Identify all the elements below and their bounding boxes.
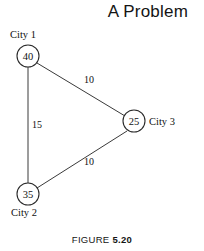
city-label-city3: City 3 (149, 116, 175, 127)
edge-group (28, 63, 127, 188)
edge-city1-city3 (37, 63, 125, 116)
node-value-city1: 40 (23, 51, 34, 62)
edge-label-group: 10 15 10 (32, 74, 94, 167)
edge-weight-city1-city2: 15 (32, 119, 42, 130)
city-label-city1: City 1 (10, 29, 36, 40)
figure-container: A Problem 10 15 10 40 25 35 City 1 (0, 0, 204, 251)
edge-weight-city2-city3: 10 (84, 156, 94, 167)
node-value-city2: 35 (23, 189, 34, 200)
caption-number: 5.20 (112, 234, 132, 245)
figure-caption: FIGURE 5.20 (0, 234, 204, 245)
node-value-city3: 25 (129, 116, 140, 127)
edge-weight-city1-city3: 10 (84, 74, 94, 85)
city-label-city2: City 2 (11, 207, 37, 218)
caption-prefix: FIGURE (72, 234, 110, 245)
graph-diagram: 10 15 10 40 25 35 City 1 City 3 City 2 (0, 0, 204, 251)
edge-city2-city3 (37, 131, 127, 188)
